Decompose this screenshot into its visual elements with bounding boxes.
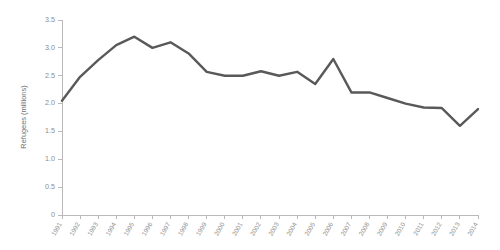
x-tick-label: 2007	[339, 221, 352, 237]
x-tick-label: 1991	[50, 221, 63, 237]
y-tick-label: 3.0	[45, 43, 55, 52]
y-tick-label: 0	[51, 210, 55, 219]
x-axis: 1991199219931994199519961997199819992000…	[50, 215, 479, 237]
x-tick-label: 2010	[393, 221, 406, 237]
x-tick-label: 1997	[158, 221, 171, 237]
y-axis-title: Refugees (millions)	[19, 85, 28, 148]
y-tick-group: 00.51.01.52.02.53.03.5	[45, 15, 62, 219]
y-tick-label: 1.5	[45, 126, 55, 135]
x-tick-label: 1995	[122, 221, 135, 237]
x-tick-label: 1993	[86, 221, 99, 237]
x-tick-label: 1999	[194, 221, 207, 237]
refugees-line-chart: Refugees (millions) 00.51.01.52.02.53.03…	[0, 0, 500, 250]
x-tick-label: 2000	[212, 221, 225, 237]
x-tick-label: 1994	[104, 221, 117, 237]
x-tick-label: 2002	[249, 221, 262, 237]
refugees-series-line	[62, 37, 478, 126]
x-tick-label: 2004	[285, 221, 298, 237]
x-tick-label: 2014	[466, 221, 479, 237]
x-tick-group: 1991199219931994199519961997199819992000…	[50, 215, 479, 237]
data-series-group	[62, 37, 478, 126]
x-tick-label: 2006	[321, 221, 334, 237]
chart-canvas: Refugees (millions) 00.51.01.52.02.53.03…	[0, 0, 500, 250]
y-axis: 00.51.01.52.02.53.03.5	[45, 15, 62, 219]
x-tick-label: 1998	[176, 221, 189, 237]
x-tick-label: 2003	[267, 221, 280, 237]
y-tick-label: 3.5	[45, 15, 55, 24]
x-tick-label: 1996	[140, 221, 153, 237]
y-tick-label: 1.0	[45, 154, 55, 163]
x-tick-label: 2001	[231, 221, 244, 237]
y-tick-label: 2.0	[45, 98, 55, 107]
y-tick-label: 2.5	[45, 71, 55, 80]
x-tick-label: 1992	[68, 221, 81, 237]
x-tick-label: 2008	[357, 221, 370, 237]
x-tick-label: 2012	[430, 221, 443, 237]
y-tick-label: 0.5	[45, 182, 55, 191]
x-tick-label: 2011	[412, 221, 425, 237]
x-tick-label: 2005	[303, 221, 316, 237]
y-axis-title-group: Refugees (millions)	[19, 85, 28, 148]
x-tick-label: 2009	[375, 221, 388, 237]
x-tick-label: 2013	[448, 221, 461, 237]
